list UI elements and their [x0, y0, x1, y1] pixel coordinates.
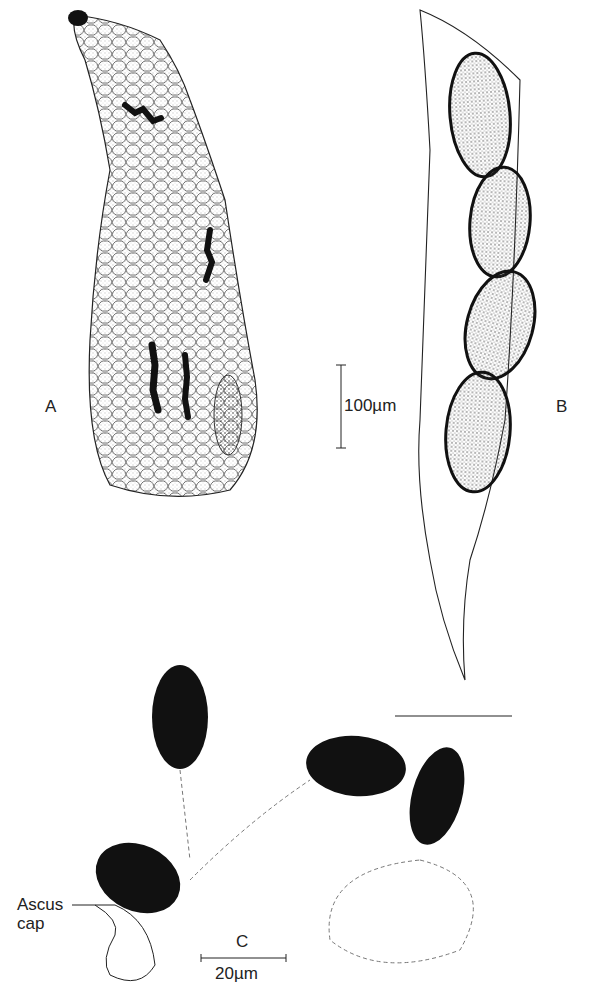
illustration	[0, 0, 594, 1003]
scale-bar-a-label: 100µm	[344, 397, 396, 414]
panel-label-a: A	[45, 398, 56, 415]
panel-label-b: B	[556, 398, 567, 415]
ascus-cap-label-line1: Ascus	[17, 896, 63, 913]
ostiole-icon	[68, 10, 88, 26]
scale-bar-c-label: 20µm	[215, 965, 258, 982]
panel-label-c: C	[236, 933, 248, 950]
ascus-cap-label-line2: cap	[17, 915, 44, 932]
panel-c-spores	[72, 665, 474, 981]
panel-a-perithecium	[68, 10, 346, 496]
panel-b-ascus	[395, 10, 546, 716]
figure: A 100µm B C 20µm Ascus cap	[0, 0, 594, 1003]
